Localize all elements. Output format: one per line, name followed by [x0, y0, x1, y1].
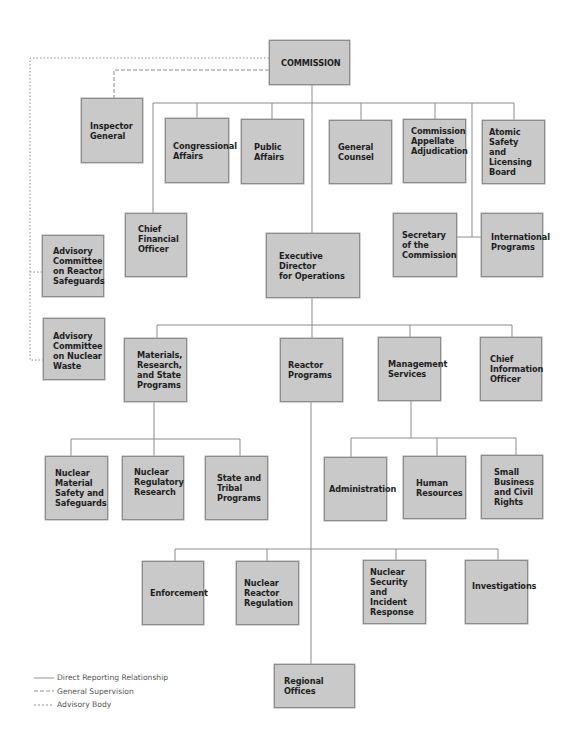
node-management-services: Management Services [378, 337, 441, 401]
org-chart: COMMISSION Inspector General Congression… [0, 0, 570, 754]
node-international-programs: International Programs [481, 213, 543, 277]
node-atomic-safety-licensing-board: Atomic Safety and Licensing Board [482, 120, 545, 184]
node-state-tribal-programs: State and Tribal Programs [205, 456, 268, 520]
node-label: COMMISSION [281, 58, 341, 68]
legend-label: General Supervision [57, 685, 134, 699]
node-label: Materials, Research, and State Programs [137, 350, 182, 390]
node-administration: Administration [324, 457, 387, 521]
node-label: International Programs [491, 232, 550, 252]
node-label: Inspector General [90, 121, 133, 141]
legend-item-direct: Direct Reporting Relationship [34, 671, 168, 685]
node-enforcement: Enforcement [142, 561, 204, 625]
supervision-line-inspector [114, 70, 269, 98]
node-commission-appellate-adjudication: Commission Appellate Adjudication [403, 119, 466, 183]
node-commission: COMMISSION [269, 40, 350, 85]
node-label: Advisory Committee on Nuclear Waste [53, 331, 103, 371]
node-label: Advisory Committee on Reactor Safeguards [53, 246, 105, 286]
node-label: Administration [329, 484, 396, 494]
node-materials-research-state: Materials, Research, and State Programs [124, 338, 187, 402]
node-acrs: Advisory Committee on Reactor Safeguards [42, 235, 104, 297]
node-label: Enforcement [150, 588, 208, 598]
node-label: Commission Appellate Adjudication [411, 126, 468, 156]
node-nuclear-regulatory-research: Nuclear Regulatory Research [122, 456, 184, 520]
node-label: Small Business and Civil Rights [494, 467, 534, 507]
node-label: Reactor Programs [288, 360, 332, 380]
dashed-line-icon [34, 689, 54, 693]
node-investigations: Investigations [465, 560, 528, 624]
dotted-line-icon [34, 703, 54, 707]
legend-label: Direct Reporting Relationship [57, 671, 168, 685]
node-secretary-of-commission: Secretary of the Commission [393, 213, 457, 277]
node-label: Nuclear Reactor Regulation [244, 578, 293, 608]
node-label: Chief Financial Officer [138, 224, 179, 254]
node-executive-director-operations: Executive Director for Operations [266, 233, 360, 298]
node-label: Nuclear Security and Incident Response [370, 567, 424, 617]
node-small-business-civil-rights: Small Business and Civil Rights [481, 455, 543, 519]
node-nmss: Nuclear Material Safety and Safeguards [45, 456, 108, 520]
node-label: Public Affairs [254, 142, 284, 162]
node-label: Chief Information Officer [490, 354, 543, 384]
legend-label: Advisory Body [57, 698, 111, 712]
node-nuclear-reactor-regulation: Nuclear Reactor Regulation [236, 561, 299, 625]
legend: Direct Reporting Relationship General Su… [34, 671, 168, 712]
node-reactor-programs: Reactor Programs [280, 338, 343, 402]
node-label: State and Tribal Programs [217, 473, 261, 503]
solid-line-icon [34, 676, 54, 680]
legend-item-advisory: Advisory Body [34, 698, 168, 712]
node-label: General Counsel [338, 142, 374, 162]
node-label: Human Resources [416, 478, 463, 498]
node-label: Nuclear Material Safety and Safeguards [55, 468, 107, 508]
node-label: Secretary of the Commission [402, 230, 457, 260]
legend-item-general-supervision: General Supervision [34, 685, 168, 699]
node-public-affairs: Public Affairs [241, 119, 304, 184]
line-mrsp-bus [71, 439, 240, 456]
node-human-resources: Human Resources [403, 456, 466, 519]
node-label: Executive Director for Operations [279, 251, 353, 281]
node-inspector-general: Inspector General [81, 98, 143, 163]
node-regional-offices: Regional Offices [274, 664, 355, 708]
node-label: Investigations [472, 581, 536, 591]
node-acnw: Advisory Committee on Nuclear Waste [43, 318, 105, 380]
node-label: Nuclear Regulatory Research [134, 467, 184, 497]
node-chief-financial-officer: Chief Financial Officer [125, 213, 187, 277]
node-label: Regional Offices [284, 676, 324, 696]
node-general-counsel: General Counsel [329, 120, 392, 184]
node-label: Congressional Affairs [173, 141, 237, 161]
node-chief-information-officer: Chief Information Officer [480, 337, 542, 401]
node-nsir: Nuclear Security and Incident Response [363, 560, 426, 624]
node-label: Atomic Safety and Licensing Board [489, 127, 542, 177]
node-label: Management Services [388, 359, 447, 379]
node-congressional-affairs: Congressional Affairs [165, 118, 229, 183]
